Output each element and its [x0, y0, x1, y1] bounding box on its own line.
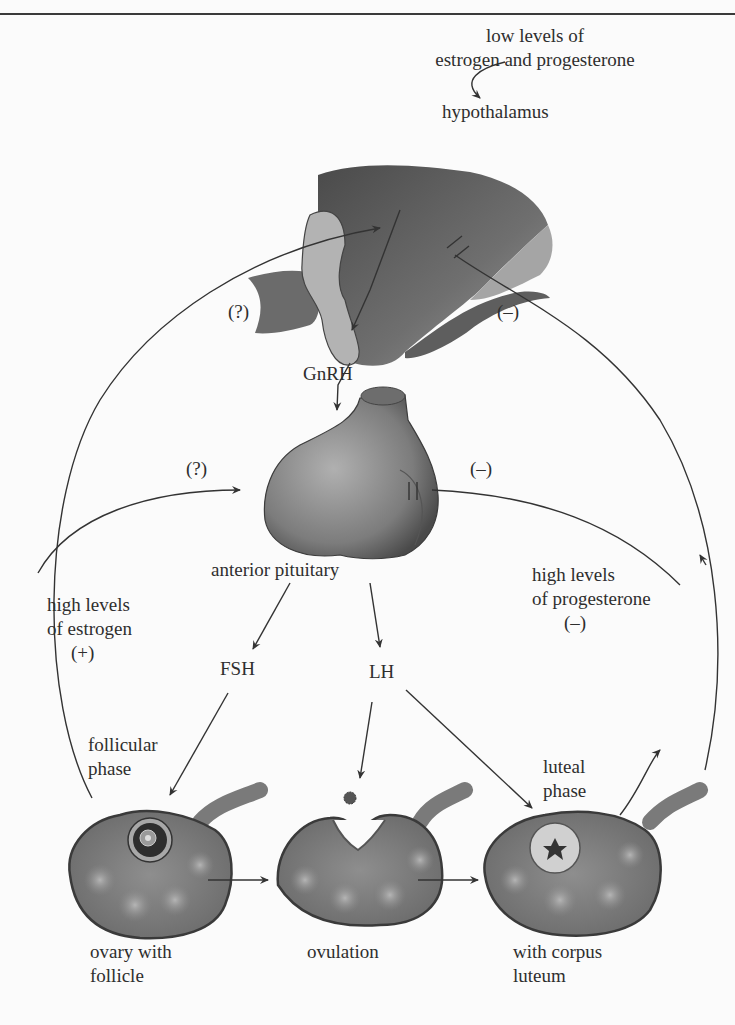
- low-levels-line2: estrogen and progesterone: [430, 48, 640, 72]
- pituitary-minus-label: (–): [470, 457, 492, 481]
- arrow-pituitary-to-lh: [370, 583, 380, 647]
- ovary-with-corpus-luteum-illustration: [484, 790, 700, 936]
- fsh-label: FSH: [220, 657, 255, 681]
- follicular-phase-label: follicular phase: [88, 733, 158, 781]
- pituitary-question-label: (?): [186, 457, 207, 481]
- hypothalamus-label: hypothalamus: [442, 100, 549, 124]
- high-progesterone-line1: high levels: [532, 563, 651, 587]
- luteal-phase-label: luteal phase: [543, 755, 586, 803]
- high-estrogen-line2: of estrogen: [47, 617, 132, 641]
- corpus-luteum-label: with corpus luteum: [513, 940, 602, 988]
- ovary-with-follicle-illustration: [69, 790, 260, 938]
- ovary-with-follicle-label: ovary with follicle: [90, 940, 172, 988]
- line-progesterone-to-hypothalamus: [455, 255, 718, 770]
- luteal-line2: phase: [543, 779, 586, 803]
- high-estrogen-sign: (+): [47, 641, 132, 665]
- gnrh-label: GnRH: [303, 362, 353, 386]
- ovulation-label: ovulation: [307, 940, 379, 964]
- arrow-lh-to-ovulation: [360, 702, 372, 778]
- ovary1-line2: follicle: [90, 964, 172, 988]
- ovary1-line1: ovary with: [90, 940, 172, 964]
- hypothalamus-illustration: [248, 165, 553, 366]
- ovary3-line1: with corpus: [513, 940, 602, 964]
- high-progesterone-sign: (–): [532, 611, 651, 635]
- high-estrogen-label: high levels of estrogen (+): [47, 593, 132, 665]
- anterior-pituitary-illustration: [264, 387, 438, 559]
- feedback-diagram: [0, 0, 735, 1025]
- arrow-pituitary-to-fsh: [253, 583, 290, 649]
- anterior-pituitary-label: anterior pituitary: [211, 558, 339, 582]
- high-estrogen-line1: high levels: [47, 593, 132, 617]
- ovulation-ovary-illustration: [278, 790, 465, 926]
- hypothalamus-minus-label: (–): [497, 300, 519, 324]
- ovary3-line2: luteum: [513, 964, 602, 988]
- arrow-corpus-luteum-progesterone: [620, 750, 660, 815]
- hypothalamus-question-label: (?): [228, 300, 249, 324]
- high-progesterone-label: high levels of progesterone (–): [532, 563, 651, 635]
- arrow-fsh-to-follicle: [170, 693, 228, 795]
- low-levels-line1: low levels of: [430, 24, 640, 48]
- follicular-line1: follicular: [88, 733, 158, 757]
- follicular-line2: phase: [88, 757, 158, 781]
- lh-label: LH: [369, 660, 394, 684]
- luteal-line1: luteal: [543, 755, 586, 779]
- low-levels-label: low levels of estrogen and progesterone: [430, 24, 640, 72]
- high-progesterone-line2: of progesterone: [532, 587, 651, 611]
- arrow-estrogen-to-pituitary: [38, 490, 240, 573]
